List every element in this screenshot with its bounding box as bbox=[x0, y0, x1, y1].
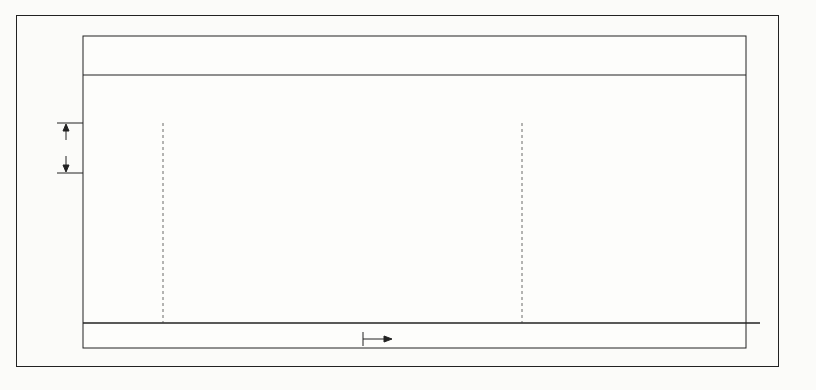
chart-paper bbox=[83, 36, 746, 348]
scale-bracket bbox=[57, 123, 83, 173]
filter-response-chart bbox=[0, 0, 816, 390]
